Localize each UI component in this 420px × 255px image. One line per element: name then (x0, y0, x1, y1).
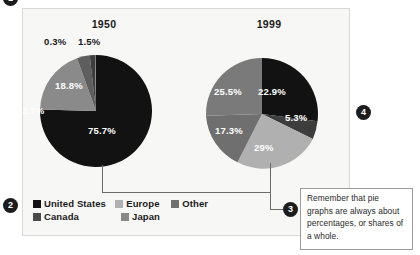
pie-value-1950-other: 0.3% (44, 36, 66, 47)
step-marker-2[interactable]: 2 (3, 198, 18, 213)
legend-swatch-other (171, 200, 179, 208)
callout-box: Remember that pie graphs are always abou… (300, 188, 413, 250)
legend-label-canada: Canada (44, 212, 79, 222)
legend-item-other[interactable]: Other (171, 199, 218, 209)
legend-item-canada[interactable]: Canada (33, 212, 121, 222)
step-marker-4[interactable]: 4 (356, 105, 371, 120)
legend-label-united-states: United States (44, 199, 106, 209)
legend-label-europe: Europe (126, 199, 159, 209)
legend-swatch-united-states (33, 200, 41, 208)
callout-text: Remember that pie graphs are always abou… (307, 192, 407, 242)
legend-item-europe[interactable]: Europe (115, 199, 171, 209)
step-marker-3[interactable]: 3 (283, 202, 298, 217)
pie-title-1999: 1999 (234, 18, 304, 30)
screenshot-root: 1950 0.3% 1.5% 18.8% 3.7% 75.7% 1999 (0, 0, 420, 255)
pie-value-1950-canada: 1.5% (78, 36, 100, 47)
legend-item-united-states[interactable]: United States (33, 199, 115, 209)
pie-chart-1950 (40, 55, 152, 167)
pie-value-1950-united-states: 75.7% (88, 125, 116, 136)
legend-row-2: Canada Japan (33, 212, 218, 225)
pie-value-1999-other: 25.5% (214, 86, 242, 97)
pie-title-1950: 1950 (69, 18, 139, 30)
pie-value-1950-europe: 18.8% (55, 80, 83, 91)
leader-line-horizontal (102, 192, 271, 193)
legend-swatch-japan (121, 213, 129, 221)
pie-value-1999-canada: 5.3% (285, 112, 307, 123)
pie-value-1999-japan: 17.3% (215, 125, 243, 136)
legend-swatch-europe (115, 200, 123, 208)
chart-legend: United States Europe Other Canada Japan (33, 199, 218, 225)
legend-label-japan: Japan (132, 212, 160, 222)
legend-item-japan[interactable]: Japan (121, 212, 181, 222)
legend-swatch-canada (33, 213, 41, 221)
leader-line-left-vertical (102, 165, 103, 192)
legend-label-other: Other (182, 199, 208, 209)
leader-line-right-vertical (270, 163, 271, 192)
pie-value-1999-united-states: 22.9% (258, 86, 286, 97)
leader-line-down-vertical (270, 192, 271, 209)
pie-value-1950-japan: 3.7% (22, 105, 44, 116)
pie-value-1999-europe: 29% (254, 142, 274, 153)
step-marker-1[interactable]: 1 (3, 0, 18, 6)
